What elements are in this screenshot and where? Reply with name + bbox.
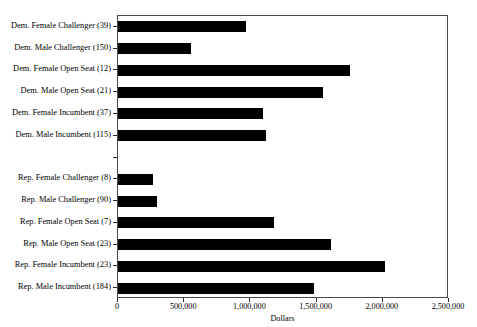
category-label: Rep. Male Challenger (90) xyxy=(0,196,111,204)
category-label: Rep. Female Incumbent (23) xyxy=(0,261,111,269)
category-label: Rep. Male Open Seat (23) xyxy=(0,240,111,248)
y-axis-tick xyxy=(113,91,117,92)
y-axis-tick xyxy=(113,113,117,114)
category-label: Rep. Female Open Seat (7) xyxy=(0,218,111,226)
category-label: Dem. Female Incumbent (37) xyxy=(0,109,111,117)
bar xyxy=(118,43,191,54)
category-label: Dem. Male Challenger (150) xyxy=(0,44,111,52)
bar xyxy=(118,217,274,228)
category-axis-labels: Dem. Female Challenger (39)Dem. Male Cha… xyxy=(0,15,114,298)
bar xyxy=(118,108,263,119)
x-axis-title: Dollars xyxy=(117,315,448,323)
y-axis-tick xyxy=(113,265,117,266)
x-axis-tick-label: 2,000,000 xyxy=(365,303,398,311)
bar xyxy=(118,239,331,250)
category-label: Rep. Male Incumbent (184) xyxy=(0,283,111,291)
bar xyxy=(118,21,246,32)
y-axis-tick xyxy=(113,69,117,70)
bar xyxy=(118,130,266,141)
category-label: Dem. Female Challenger (39) xyxy=(0,22,111,30)
bar xyxy=(118,196,157,207)
bar-chart: Dem. Female Challenger (39)Dem. Male Cha… xyxy=(0,0,477,327)
bar xyxy=(118,261,385,272)
category-label: Dem. Female Open Seat (12) xyxy=(0,65,111,73)
y-axis-tick xyxy=(113,244,117,245)
category-label: Dem. Male Incumbent (115) xyxy=(0,131,111,139)
plot-area xyxy=(118,16,447,297)
category-label: Rep. Female Challenger (8) xyxy=(0,174,111,182)
y-axis-tick xyxy=(113,26,117,27)
y-axis-tick xyxy=(113,48,117,49)
x-axis-tick-label: 1,500,000 xyxy=(299,303,332,311)
y-axis-tick xyxy=(113,222,117,223)
y-axis-tick xyxy=(113,135,117,136)
y-axis-tick xyxy=(113,287,117,288)
x-axis-tick-label: 0 xyxy=(115,303,119,311)
bar xyxy=(118,174,153,185)
x-axis-tick-label: 500,000 xyxy=(170,303,197,311)
bar xyxy=(118,283,314,294)
y-axis-tick xyxy=(113,178,117,179)
category-label: Dem. Male Open Seat (21) xyxy=(0,87,111,95)
plot-frame xyxy=(117,15,448,298)
y-axis-tick xyxy=(113,157,117,158)
y-axis-tick xyxy=(113,200,117,201)
bar xyxy=(118,65,350,76)
x-axis-tick-label: 1,000,000 xyxy=(233,303,266,311)
x-axis-tick-label: 2,500,000 xyxy=(432,303,465,311)
bar xyxy=(118,87,323,98)
